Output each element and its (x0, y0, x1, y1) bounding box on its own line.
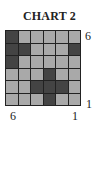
grid-cell-r4-c4 (44, 69, 56, 81)
grid-cell-r4-c3 (31, 69, 43, 81)
grid-cell-r6-c4 (44, 94, 56, 106)
row-label-top: 6 (85, 29, 91, 44)
grid-cell-r1-c1 (6, 31, 18, 43)
chart-grid (5, 30, 81, 106)
grid-cell-r3-c3 (31, 56, 43, 68)
grid-cell-r1-c4 (44, 31, 56, 43)
col-label-left: 6 (10, 109, 16, 124)
grid-cell-r6-c6 (69, 94, 81, 106)
grid-cell-r1-c6 (69, 31, 81, 43)
grid-cell-r6-c3 (31, 94, 43, 106)
grid-cell-r1-c5 (56, 31, 68, 43)
row-label-bottom: 1 (86, 97, 92, 112)
grid-cell-r2-c4 (44, 44, 56, 56)
grid-cell-r6-c1 (6, 94, 18, 106)
grid-cell-r5-c6 (69, 81, 81, 93)
grid-cell-r3-c1 (6, 56, 18, 68)
grid-cell-r5-c2 (19, 81, 31, 93)
grid-cell-r4-c1 (6, 69, 18, 81)
grid-cell-r3-c4 (44, 56, 56, 68)
grid-cell-r2-c5 (56, 44, 68, 56)
grid-cell-r2-c6 (69, 44, 81, 56)
grid-cell-r6-c2 (19, 94, 31, 106)
chart-title: CHART 2 (0, 9, 99, 24)
grid-cell-r5-c5 (56, 81, 68, 93)
grid-cell-r5-c3 (31, 81, 43, 93)
grid-cell-r3-c5 (56, 56, 68, 68)
grid-cell-r4-c6 (69, 69, 81, 81)
grid-cell-r2-c3 (31, 44, 43, 56)
grid-cell-r1-c2 (19, 31, 31, 43)
grid-cell-r1-c3 (31, 31, 43, 43)
col-label-right: 1 (72, 109, 78, 124)
grid-cell-r2-c1 (6, 44, 18, 56)
grid-cell-r6-c5 (56, 94, 68, 106)
grid-cell-r4-c2 (19, 69, 31, 81)
grid-cell-r4-c5 (56, 69, 68, 81)
grid-cell-r3-c2 (19, 56, 31, 68)
grid-cell-r5-c1 (6, 81, 18, 93)
grid-cell-r3-c6 (69, 56, 81, 68)
grid-cell-r5-c4 (44, 81, 56, 93)
grid-cell-r2-c2 (19, 44, 31, 56)
